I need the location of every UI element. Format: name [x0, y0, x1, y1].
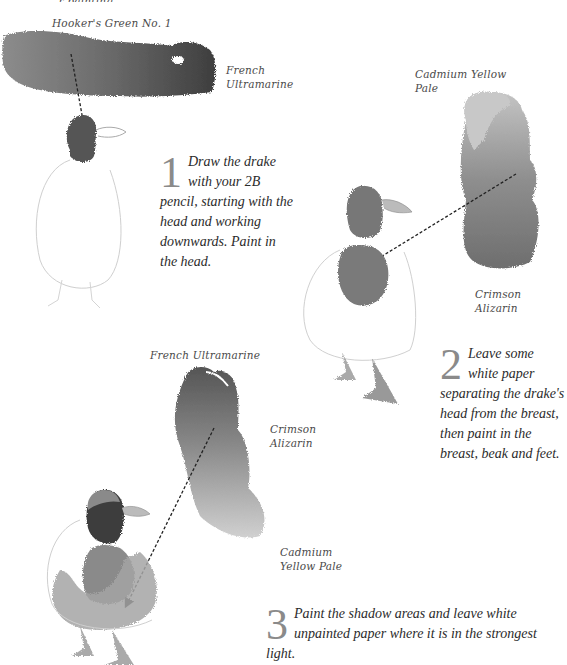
label-french-ultramarine-1a: French [226, 63, 265, 77]
label-cadmium-yellow-3b: Yellow Pale [280, 559, 342, 573]
label-cadmium-yellow-2b: Pale [415, 81, 438, 95]
step-2: 2 Leave some white paper separating the … [440, 344, 565, 464]
label-cadmium-yellow-3a: Cadmium [280, 545, 332, 559]
step-3-text: Paint the shadow areas and leave white u… [266, 606, 537, 661]
label-crimson-alizarin-3a: Crimson [270, 422, 316, 436]
label-french-ultramarine-3: French Ultramarine [150, 348, 260, 362]
label-cadmium-yellow-2a: Cadmium Yellow [415, 67, 506, 81]
swatch-bottom [175, 367, 265, 538]
label-hookers-green: Hooker's Green No. 1 [52, 16, 172, 30]
label-french-ultramarine-1b: Ultramarine [226, 77, 293, 91]
step-3-number: 3 [266, 606, 288, 644]
swatch-top [2, 31, 215, 97]
step-2-number: 2 [440, 346, 462, 384]
drake-step1 [36, 115, 126, 308]
label-crimson-alizarin-2: Crimson Alizarin [475, 287, 567, 315]
label-crimson-alizarin-3b: Alizarin [270, 436, 313, 450]
step-3: 3 Paint the shadow areas and leave white… [266, 604, 556, 664]
step-1-number: 1 [160, 154, 182, 192]
swatch-right [461, 92, 539, 269]
drake-step2 [304, 186, 416, 404]
drake-step3 [47, 490, 157, 665]
header-cutoff-text: ...r painting [48, 0, 208, 2]
step-1: 1 Draw the drake with your 2B pencil, st… [160, 152, 295, 272]
